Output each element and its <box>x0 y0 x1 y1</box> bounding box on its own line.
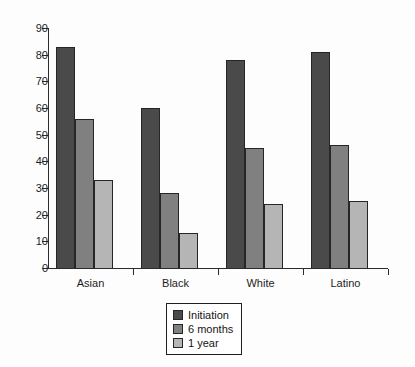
plot-area <box>48 28 388 268</box>
bar <box>349 201 368 268</box>
bar-group <box>56 28 113 268</box>
y-axis-tick-label: 80 <box>10 50 48 61</box>
y-axis-tick-label: 50 <box>10 130 48 141</box>
x-axis-category-label: Asian <box>48 278 133 289</box>
bar <box>311 52 330 268</box>
x-axis-category-label: White <box>218 278 303 289</box>
bar-group <box>141 28 198 268</box>
legend-item-label: Initiation <box>188 310 229 321</box>
y-axis-tick-label: 30 <box>10 183 48 194</box>
x-axis-tick <box>133 269 134 275</box>
y-axis-tick-label: 70 <box>10 76 48 87</box>
bar <box>141 108 160 268</box>
bar <box>94 180 113 268</box>
bar-chart-figure: 0102030405060708090 AsianBlackWhiteLatin… <box>0 0 415 367</box>
bar <box>160 193 179 268</box>
legend-item-label: 6 months <box>188 324 233 335</box>
bar-group <box>226 28 283 268</box>
y-axis-tick-label: 40 <box>10 156 48 167</box>
x-axis-category-label: Black <box>133 278 218 289</box>
y-axis-tick-label: 60 <box>10 103 48 114</box>
y-axis-tick-label: 0 <box>10 263 48 274</box>
legend-color-swatch <box>173 324 183 334</box>
legend-item: 6 months <box>173 322 233 336</box>
legend-item: Initiation <box>173 308 233 322</box>
x-axis-category-label: Latino <box>303 278 388 289</box>
legend-color-swatch <box>173 310 183 320</box>
x-axis-tick <box>388 269 389 275</box>
bar <box>56 47 75 268</box>
y-axis-tick-label: 20 <box>10 210 48 221</box>
bar <box>75 119 94 268</box>
bar <box>226 60 245 268</box>
x-axis-tick <box>218 269 219 275</box>
x-axis-tick <box>303 269 304 275</box>
legend-item-label: 1 year <box>188 338 219 349</box>
y-axis-tick-label: 10 <box>10 236 48 247</box>
bar <box>264 204 283 268</box>
bar <box>179 233 198 268</box>
bar <box>245 148 264 268</box>
bar <box>330 145 349 268</box>
bar-group <box>311 28 368 268</box>
legend-color-swatch <box>173 338 183 348</box>
chart-legend: Initiation6 months1 year <box>166 303 242 355</box>
legend-item: 1 year <box>173 336 233 350</box>
y-axis-tick-label: 90 <box>10 23 48 34</box>
